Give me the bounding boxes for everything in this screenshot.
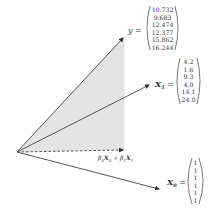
y-left-paren <box>147 6 150 50</box>
x1-values: 4.2 1.6 9.3 4.0 14.1 24.0 <box>182 58 196 103</box>
svg-text:16.244: 16.244 <box>152 44 174 51</box>
x0-values: 1 1 1 1 1 1 <box>194 159 198 204</box>
y-label: y = <box>127 26 142 35</box>
x0-label: X0 = <box>166 177 186 188</box>
x0-left-paren <box>188 158 192 204</box>
svg-text:1: 1 <box>194 174 198 181</box>
svg-text:1: 1 <box>194 167 198 174</box>
svg-text:15.862: 15.862 <box>152 36 174 43</box>
svg-text:4.0: 4.0 <box>184 81 194 88</box>
svg-text:9.683: 9.683 <box>154 14 172 21</box>
svg-text:9.3: 9.3 <box>184 73 194 80</box>
y-values: 10.732 9.683 12.474 12.377 15.862 16.244 <box>152 6 174 51</box>
x0-vector-arrow <box>17 152 159 189</box>
svg-text:24.0: 24.0 <box>182 96 196 103</box>
svg-text:10.732: 10.732 <box>152 6 174 13</box>
svg-text:4.2: 4.2 <box>184 58 194 65</box>
svg-text:1.6: 1.6 <box>184 66 194 73</box>
svg-text:14.1: 14.1 <box>182 88 196 95</box>
svg-text:12.377: 12.377 <box>152 29 174 36</box>
x1-left-paren <box>177 58 180 104</box>
x1-right-paren <box>197 58 200 104</box>
svg-text:1: 1 <box>194 197 198 204</box>
svg-text:1: 1 <box>194 182 198 189</box>
regression-geometry-diagram: y = 10.732 9.683 12.474 12.377 15.862 16… <box>0 0 209 211</box>
x0-right-paren <box>199 158 203 204</box>
y-right-paren <box>175 6 178 50</box>
projection-label: β0X0 + β1X1 <box>97 154 133 163</box>
svg-text:12.474: 12.474 <box>152 21 174 28</box>
x1-label: X1 = <box>154 79 174 90</box>
svg-text:1: 1 <box>194 159 198 166</box>
svg-text:1: 1 <box>194 189 198 196</box>
